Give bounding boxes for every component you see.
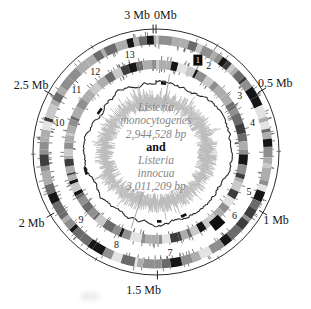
numbered-gene-ring-segment [191,229,198,233]
numbered-gene-ring-segment [242,134,243,142]
outer-gene-ring-tick [85,230,87,232]
numbered-gene-ring-tick [196,66,198,70]
outer-gene-ring-tick [220,52,222,54]
scale-label: 2 Mb [19,216,45,230]
outer-gene-ring-tick [74,220,77,222]
outer-gene-ring-tick [183,253,184,256]
outer-gene-ring-segment [116,44,127,47]
numbered-gene-ring-segment [239,124,242,134]
numbered-gene-ring-tick [206,229,207,230]
numbered-gene-ring-tick [245,128,249,129]
numbered-gene-ring-tick [76,173,78,174]
numbered-gene-ring-segment [78,191,80,194]
numbered-gene-ring-tick [181,240,182,243]
numbered-gene-ring-tick [84,212,86,214]
numbered-gene-ring-tick [187,75,188,77]
numbered-gene-ring-segment [171,66,177,67]
numbered-gene-ring-segment [131,236,142,238]
outer-gene-ring-segment [264,168,267,181]
outer-gene-ring-tick [138,254,139,258]
numbered-gene-ring-segment [145,239,151,240]
outer-gene-ring-tick [87,247,89,250]
numbered-gene-ring-tick [133,241,134,244]
outer-gene-ring-segment [75,230,82,237]
outer-gene-ring-tick [265,110,269,111]
numbered-gene-ring-tick [225,111,228,113]
numbered-gene-ring-segment [143,65,152,66]
numbered-gene-ring-tick [132,72,133,74]
outer-gene-ring-tick [50,136,53,137]
numbered-gene-ring-tick [79,97,81,98]
outer-gene-ring-segment [254,98,258,107]
numbered-gene-ring-segment [122,69,129,72]
numbered-gene-ring-segment [80,101,85,109]
outer-gene-ring-tick [254,215,257,217]
outer-gene-ring-segment [67,220,72,226]
numbered-gene-ring-tick [101,212,103,214]
numbered-gene-ring-segment [226,197,231,204]
numbered-gene-ring-segment [123,233,131,236]
outer-gene-ring-segment [263,180,264,184]
numbered-gene-ring-segment [235,114,239,124]
numbered-gene-ring-segment [179,236,181,237]
outer-gene-ring-tick [254,87,257,89]
outer-gene-ring-segment [235,73,241,79]
numbered-gene-ring-tick [236,105,238,106]
outer-gene-ring-segment [170,261,181,263]
skew-line-ring-dark-patch [161,83,166,84]
numbered-gene-ring-segment [223,96,229,104]
figure-circular-genome-comparison: 3 Mb0Mb0.5 Mb1 Mb1.5 Mb2 Mb2.5 Mb 123456… [0,0,311,309]
numbered-gene-ring-segment [71,175,72,177]
skew-line-ring-dark-patch [98,108,102,114]
outer-gene-ring-tick [84,72,86,74]
outer-gene-ring-tick [64,97,67,99]
numbered-gene-ring-tick [227,113,229,114]
outer-gene-ring-segment [263,118,264,122]
outer-gene-ring-tick [54,185,58,186]
outer-gene-ring-segment [222,237,229,243]
outer-gene-ring-tick [41,118,44,119]
numbered-gene-ring-tick [79,100,80,101]
numbered-gene-ring-segment [129,67,137,69]
outer-gene-ring-segment [48,118,49,121]
numbered-gene-ring-tick [227,189,229,190]
outer-gene-ring-tick [226,55,229,58]
outer-gene-ring-tick [55,214,57,216]
scale-major-tick [47,213,55,218]
numbered-gene-ring-tick [110,83,111,85]
outer-gene-ring-tick [52,180,54,181]
outer-gene-ring-tick [44,191,46,192]
scan-smudge [80,292,100,301]
organism1-name-line2: monocytogenes [121,114,192,127]
numbered-gene-ring-segment [69,135,70,142]
numbered-gene-ring-segment [187,232,190,233]
outer-gene-ring-tick [51,129,55,130]
numbered-gene-ring-tick [94,97,96,99]
numbered-gene-ring-black-block [212,219,221,227]
numbered-gene-ring-tick [235,170,237,171]
outer-gene-ring-tick [39,122,43,123]
outer-gene-ring-tick [114,53,115,56]
numbered-gene-ring-tick [85,214,88,217]
outer-gene-ring-tick [222,68,223,70]
numbered-gene-ring-tick [211,210,213,212]
numbered-gene-ring-segment [71,126,73,133]
numbered-gene-ring-tick [200,83,202,86]
outer-gene-ring-tick [205,44,206,47]
numbered-gene-ring-segment [166,65,171,66]
outer-gene-ring-segment [103,52,106,54]
numbered-gene-ring-segment [231,107,233,110]
outer-gene-ring-segment [253,200,257,208]
outer-gene-ring-tick [72,234,74,236]
outer-gene-ring-segment [212,55,216,57]
organism2-name-line2: innocua [137,167,174,179]
numbered-gene-ring-tick [234,131,236,132]
segment-number-label: 12 [90,66,100,77]
numbered-gene-ring-tick [109,218,110,220]
outer-gene-ring-segment [95,54,102,58]
outer-gene-ring-segment [162,263,171,264]
numbered-gene-ring-segment [90,210,95,215]
outer-gene-ring-segment [62,213,65,217]
numbered-gene-ring-segment [74,183,77,191]
organism2-genome-size: 3,011,209 bp [125,180,186,193]
